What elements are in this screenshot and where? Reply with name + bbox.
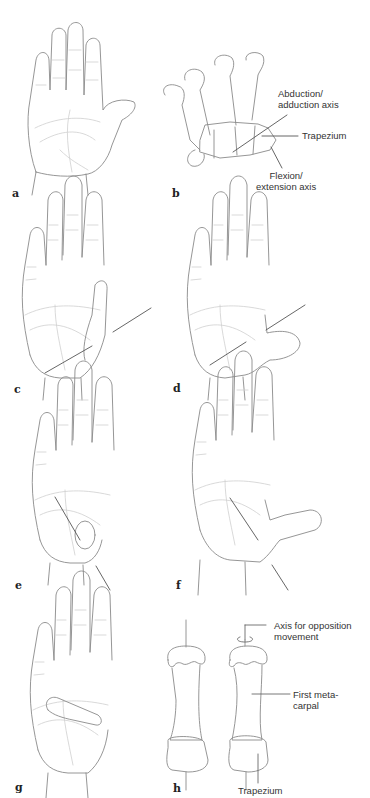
panel-h-leaders bbox=[237, 625, 290, 783]
panel-label-c: c bbox=[14, 383, 21, 396]
panel-label-e: e bbox=[15, 579, 22, 592]
annotation-flexion-axis: Flexion/ extension axis bbox=[256, 170, 316, 192]
annotation-opposition-axis: Axis for opposition movement bbox=[274, 620, 352, 642]
panel-e-axis bbox=[55, 497, 110, 590]
figure-illustration bbox=[0, 0, 370, 798]
panel-d-axis bbox=[210, 305, 305, 365]
panel-a-hand bbox=[28, 23, 135, 196]
panel-label-h: h bbox=[173, 782, 181, 795]
panel-e-hand bbox=[32, 361, 114, 585]
panel-c-hand bbox=[22, 176, 107, 400]
panel-c-axis bbox=[45, 308, 151, 373]
panel-f-hand bbox=[192, 351, 321, 595]
panel-label-d: d bbox=[173, 382, 181, 395]
panel-b-skeleton bbox=[163, 53, 276, 167]
panel-h-bones bbox=[167, 620, 268, 790]
annotation-trapezium-h: Trapezium bbox=[238, 785, 283, 796]
annotation-abduction-axis: Abduction/ adduction axis bbox=[278, 88, 339, 110]
panel-g-hand bbox=[30, 571, 112, 798]
panel-f-axis bbox=[230, 498, 288, 590]
panel-d-hand bbox=[187, 176, 300, 400]
panel-label-g: g bbox=[15, 781, 23, 794]
annotation-trapezium-b: Trapezium bbox=[302, 130, 347, 141]
annotation-first-metacarpal: First meta- carpal bbox=[293, 689, 338, 711]
panel-label-a: a bbox=[12, 187, 19, 200]
panel-label-b: b bbox=[172, 187, 180, 200]
panel-label-f: f bbox=[176, 579, 181, 592]
